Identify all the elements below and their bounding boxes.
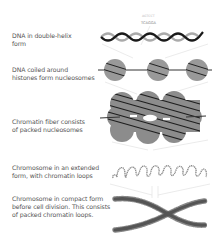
chromatin-fiber-icon	[100, 78, 206, 145]
dna-packaging-illustration: AGTCCT TCAGGA	[0, 0, 224, 241]
sequence-top-strand: AGTCCT	[142, 14, 155, 18]
compact-chromosome-icon	[115, 199, 205, 230]
nucleosome	[102, 59, 128, 81]
nucleosome	[184, 59, 210, 81]
double-helix-icon: AGTCCT TCAGGA	[101, 14, 203, 41]
nucleosomes-icon	[98, 59, 212, 81]
extended-chromosome-icon	[113, 166, 207, 178]
sequence-bottom-strand: TCAGGA	[140, 21, 156, 25]
nucleosome	[145, 59, 171, 81]
